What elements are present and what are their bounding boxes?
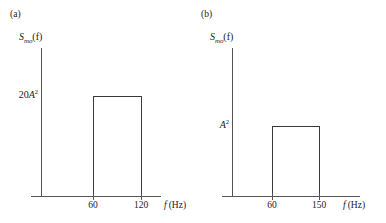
y-tick-b-exponent: 2 xyxy=(226,118,229,125)
x-tick-label-b-150: 150 xyxy=(306,200,332,210)
x-axis-title-b-unit: (Hz) xyxy=(348,200,365,210)
x-axis-title-b-symbol: f xyxy=(343,200,346,210)
panel-label-b: (b) xyxy=(201,9,212,19)
y-axis-a xyxy=(41,48,42,197)
x-tick-mark-a-60 xyxy=(93,193,94,200)
x-tick-mark-b-60 xyxy=(272,193,273,200)
spectrum-band-b xyxy=(272,126,320,196)
y-tick-a-exponent: 2 xyxy=(35,88,38,95)
x-axis-title-b: f(Hz) xyxy=(343,200,365,210)
x-axis-title-a-unit: (Hz) xyxy=(169,200,186,210)
x-axis-b xyxy=(222,196,360,197)
y-axis-label-a-argument: (f) xyxy=(32,31,42,42)
y-tick-label-a-amplitude: 20A2 xyxy=(0,88,38,100)
x-tick-label-b-60: 60 xyxy=(259,200,285,210)
y-axis-b xyxy=(232,48,233,197)
panel-label-a: (a) xyxy=(10,9,21,19)
x-tick-label-a-120: 120 xyxy=(128,200,154,210)
y-tick-label-b-amplitude: A2 xyxy=(193,118,229,130)
x-axis-title-a-symbol: f xyxy=(164,200,167,210)
figure-root: (a) Smo(f) 20A2 60 120 f(Hz) (b) Smo(f) xyxy=(0,0,386,223)
y-axis-label-b: Smo(f) xyxy=(210,31,233,45)
y-axis-label-b-argument: (f) xyxy=(223,31,233,42)
y-axis-label-a: Smo(f) xyxy=(19,31,42,45)
x-tick-label-a-60: 60 xyxy=(80,200,106,210)
panel-b: (b) Smo(f) A2 60 150 f(Hz) xyxy=(193,0,386,223)
spectrum-band-a xyxy=(93,96,142,196)
x-axis-title-a: f(Hz) xyxy=(164,200,186,210)
x-tick-mark-a-120 xyxy=(141,193,142,200)
x-tick-mark-b-150 xyxy=(319,193,320,200)
y-tick-a-prefix: 20 xyxy=(19,89,29,100)
panel-a: (a) Smo(f) 20A2 60 120 f(Hz) xyxy=(0,0,193,223)
